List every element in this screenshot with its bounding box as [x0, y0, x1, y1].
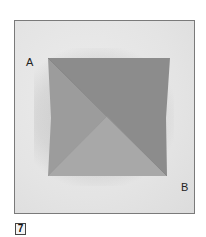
folded-paper-square [0, 0, 206, 237]
corner-label-a: A [26, 56, 33, 68]
step-number-badge: 7 [15, 223, 26, 235]
corner-label-b: B [181, 181, 188, 193]
